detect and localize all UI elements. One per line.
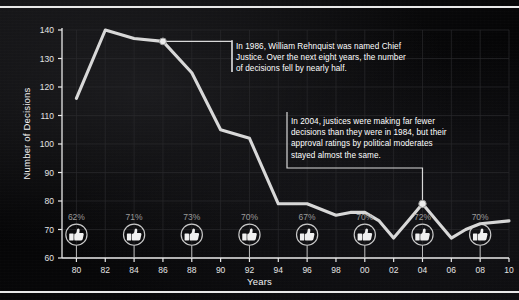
x-tick-label: 86 [152, 265, 174, 275]
annotation-marker-2004 [419, 200, 426, 207]
y-tick-label: 110 [28, 111, 54, 121]
chart-screenshot: Number of Decisions Years 14013012011010… [0, 0, 519, 300]
approval-percent-label: 71% [119, 212, 149, 222]
x-tick-label: 96 [296, 265, 318, 275]
y-tick-label: 60 [28, 253, 54, 263]
x-tick-label: 90 [210, 265, 232, 275]
y-tick-label: 100 [28, 139, 54, 149]
x-tick-label: 82 [94, 265, 116, 275]
x-tick-label: 88 [181, 265, 203, 275]
y-tick-label: 90 [28, 168, 54, 178]
x-tick-label: 10 [498, 265, 519, 275]
x-tick-label: 06 [440, 265, 462, 275]
x-tick-label: 02 [383, 265, 405, 275]
annotation-1986: In 1986, William Rehnquist was named Chi… [236, 41, 436, 75]
approval-percent-label: 73% [177, 212, 207, 222]
approval-percent-label: 62% [61, 212, 91, 222]
approval-percent-label: 70% [234, 212, 264, 222]
approval-percent-label: 70% [465, 212, 495, 222]
y-tick-label: 130 [28, 54, 54, 64]
approval-percent-label: 67% [292, 212, 322, 222]
x-tick-label: 98 [325, 265, 347, 275]
y-tick-label: 140 [28, 25, 54, 35]
annotation-marker-1986 [160, 38, 167, 45]
annotation-2004: In 2004, justices were making far fewer … [291, 116, 486, 161]
x-tick-label: 92 [238, 265, 260, 275]
x-tick-label: 08 [469, 265, 491, 275]
approval-percent-label: 72% [407, 212, 437, 222]
x-tick-label: 00 [354, 265, 376, 275]
x-tick-label: 94 [267, 265, 289, 275]
y-tick-label: 120 [28, 82, 54, 92]
y-tick-label: 80 [28, 196, 54, 206]
x-tick-label: 04 [411, 265, 433, 275]
x-tick-label: 84 [123, 265, 145, 275]
x-tick-label: 80 [65, 265, 87, 275]
approval-percent-label: 70% [350, 212, 380, 222]
x-axis-title: Years [0, 276, 519, 287]
y-tick-label: 70 [28, 225, 54, 235]
